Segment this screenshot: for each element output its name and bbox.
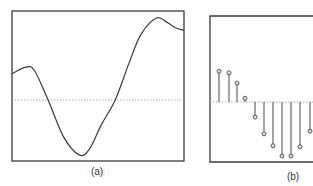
stem-marker xyxy=(243,96,247,100)
stem-marker xyxy=(227,71,231,75)
signal-curve xyxy=(12,17,184,155)
caption-b: (b) xyxy=(287,171,299,182)
stem-marker xyxy=(298,145,302,149)
caption-a: (a) xyxy=(91,166,103,177)
panel-a-continuous-signal xyxy=(12,11,184,161)
stem-marker xyxy=(308,129,312,133)
plot-frame-b xyxy=(210,16,313,162)
stem-marker xyxy=(271,144,275,148)
stem-marker xyxy=(253,115,257,119)
plot-frame-a xyxy=(12,11,184,161)
panel-b-sampled-signal xyxy=(210,16,313,162)
stem-marker xyxy=(262,132,266,136)
stem-marker xyxy=(289,154,293,158)
stem-series xyxy=(217,69,312,158)
stem-marker xyxy=(280,154,284,158)
stem-marker xyxy=(217,69,221,73)
stem-marker xyxy=(235,81,239,85)
figure xyxy=(0,0,313,186)
